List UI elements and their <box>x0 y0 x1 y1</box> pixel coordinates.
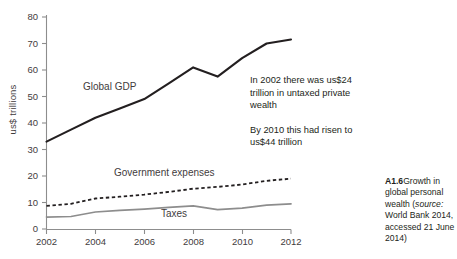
annotation-paragraph-2: By 2010 this had risen to us$44 trillion <box>250 124 366 149</box>
x-tick-label-2010: 2010 <box>223 236 263 247</box>
x-tick-label-2006: 2006 <box>125 236 165 247</box>
y-tick-label-50: 50 <box>16 91 38 102</box>
annotation-paragraph-1: In 2002 there was us$24 trillion in unta… <box>250 74 366 112</box>
y-tick-label-40: 40 <box>16 117 38 128</box>
figure-number: A1.6 <box>385 176 403 186</box>
y-tick-label-0: 0 <box>16 223 38 234</box>
y-tick-label-70: 70 <box>16 38 38 49</box>
series-label-global-gdp: Global GDP <box>83 81 136 92</box>
x-tick-label-2012: 2012 <box>271 236 311 247</box>
y-tick-marks <box>42 17 47 229</box>
y-tick-label-80: 80 <box>16 11 38 22</box>
y-tick-label-10: 10 <box>16 197 38 208</box>
x-tick-label-2004: 2004 <box>76 236 116 247</box>
figure-container: us$ trillions 80 70 60 50 40 30 20 10 0 … <box>0 0 457 259</box>
caption-text-after-source: World Bank 2014, accessed 21 June 2014) <box>385 210 454 243</box>
x-tick-label-2002: 2002 <box>27 236 67 247</box>
y-tick-label-60: 60 <box>16 64 38 75</box>
chart-annotation: In 2002 there was us$24 trillion in unta… <box>250 74 366 149</box>
figure-caption: A1.6Growth in global personal wealth (so… <box>385 176 455 244</box>
series-label-taxes: Taxes <box>161 208 187 219</box>
caption-source-label: source: <box>415 199 443 209</box>
y-tick-label-20: 20 <box>16 170 38 181</box>
series-line-government-expenses <box>47 179 292 206</box>
y-axis-title: us$ trillions <box>7 72 18 148</box>
y-tick-label-30: 30 <box>16 144 38 155</box>
x-tick-label-2008: 2008 <box>174 236 214 247</box>
x-tick-marks <box>47 230 292 235</box>
series-label-government-expenses: Government expenses <box>114 167 215 178</box>
